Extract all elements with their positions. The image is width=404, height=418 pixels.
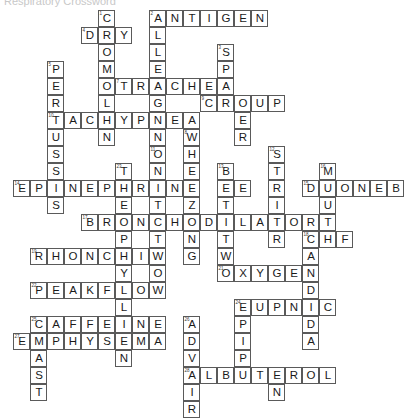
- crossword-cell[interactable]: I: [183, 384, 200, 401]
- crossword-cell[interactable]: E: [370, 180, 387, 197]
- crossword-cell[interactable]: T: [268, 214, 285, 231]
- crossword-cell[interactable]: N: [149, 112, 166, 129]
- crossword-cell[interactable]: U: [319, 197, 336, 214]
- crossword-cell[interactable]: E: [115, 333, 132, 350]
- crossword-cell[interactable]: P: [268, 299, 285, 316]
- crossword-cell[interactable]: 14E: [13, 180, 30, 197]
- crossword-cell[interactable]: E: [200, 78, 217, 95]
- crossword-cell[interactable]: D: [183, 333, 200, 350]
- crossword-cell[interactable]: F: [336, 231, 353, 248]
- crossword-cell[interactable]: R: [132, 78, 149, 95]
- crossword-cell[interactable]: R: [132, 180, 149, 197]
- crossword-cell[interactable]: I: [302, 299, 319, 316]
- crossword-cell[interactable]: H: [115, 180, 132, 197]
- crossword-cell[interactable]: U: [234, 367, 251, 384]
- crossword-cell[interactable]: K: [81, 282, 98, 299]
- crossword-cell[interactable]: Y: [81, 333, 98, 350]
- crossword-cell[interactable]: I: [132, 248, 149, 265]
- crossword-cell[interactable]: E: [149, 316, 166, 333]
- crossword-cell[interactable]: R: [234, 129, 251, 146]
- crossword-cell[interactable]: U: [251, 95, 268, 112]
- crossword-cell[interactable]: T: [149, 197, 166, 214]
- crossword-cell[interactable]: G: [183, 248, 200, 265]
- crossword-cell[interactable]: R: [268, 231, 285, 248]
- crossword-cell[interactable]: 22P: [30, 282, 47, 299]
- crossword-cell[interactable]: E: [268, 367, 285, 384]
- crossword-cell[interactable]: O: [234, 95, 251, 112]
- crossword-cell[interactable]: N: [285, 299, 302, 316]
- crossword-cell[interactable]: E: [234, 112, 251, 129]
- crossword-cell[interactable]: D: [302, 316, 319, 333]
- crossword-cell[interactable]: R: [302, 214, 319, 231]
- crossword-cell[interactable]: U: [319, 180, 336, 197]
- crossword-cell[interactable]: N: [302, 265, 319, 282]
- crossword-cell[interactable]: I: [47, 180, 64, 197]
- crossword-cell[interactable]: R: [285, 367, 302, 384]
- crossword-cell[interactable]: N: [115, 350, 132, 367]
- crossword-cell[interactable]: 9C: [200, 95, 217, 112]
- crossword-cell[interactable]: O: [98, 78, 115, 95]
- crossword-cell[interactable]: 12S: [268, 146, 285, 163]
- crossword-cell[interactable]: N: [183, 231, 200, 248]
- crossword-cell[interactable]: 5P: [47, 61, 64, 78]
- crossword-cell[interactable]: N: [251, 10, 268, 27]
- crossword-cell[interactable]: L: [98, 95, 115, 112]
- crossword-cell[interactable]: O: [64, 248, 81, 265]
- crossword-cell[interactable]: E: [285, 265, 302, 282]
- crossword-cell[interactable]: O: [336, 180, 353, 197]
- crossword-cell[interactable]: A: [149, 78, 166, 95]
- crossword-cell[interactable]: A: [149, 333, 166, 350]
- crossword-cell[interactable]: P: [47, 333, 64, 350]
- crossword-cell[interactable]: L: [319, 367, 336, 384]
- crossword-cell[interactable]: 13B: [217, 163, 234, 180]
- crossword-cell[interactable]: C: [166, 78, 183, 95]
- crossword-cell[interactable]: 17B: [81, 214, 98, 231]
- crossword-cell[interactable]: C: [98, 248, 115, 265]
- crossword-cell[interactable]: L: [149, 27, 166, 44]
- crossword-cell[interactable]: U: [47, 129, 64, 146]
- crossword-cell[interactable]: H: [115, 248, 132, 265]
- crossword-cell[interactable]: F: [81, 316, 98, 333]
- crossword-cell[interactable]: B: [387, 180, 404, 197]
- crossword-cell[interactable]: C: [319, 299, 336, 316]
- crossword-cell[interactable]: I: [149, 180, 166, 197]
- crossword-cell[interactable]: H: [166, 214, 183, 231]
- crossword-cell[interactable]: 24E: [234, 299, 251, 316]
- crossword-cell[interactable]: E: [98, 316, 115, 333]
- crossword-cell[interactable]: A: [251, 214, 268, 231]
- crossword-cell[interactable]: T: [319, 214, 336, 231]
- crossword-cell[interactable]: P: [234, 350, 251, 367]
- crossword-cell[interactable]: U: [251, 299, 268, 316]
- crossword-cell[interactable]: P: [98, 180, 115, 197]
- crossword-cell[interactable]: I: [268, 197, 285, 214]
- crossword-cell[interactable]: G: [217, 10, 234, 27]
- crossword-cell[interactable]: P: [234, 316, 251, 333]
- crossword-cell[interactable]: E: [149, 61, 166, 78]
- crossword-cell[interactable]: 21O: [217, 265, 234, 282]
- crossword-cell[interactable]: 4D: [81, 27, 98, 44]
- crossword-cell[interactable]: N: [98, 129, 115, 146]
- crossword-cell[interactable]: X: [234, 265, 251, 282]
- crossword-cell[interactable]: T: [183, 10, 200, 27]
- crossword-cell[interactable]: H: [319, 231, 336, 248]
- crossword-cell[interactable]: W: [217, 248, 234, 265]
- crossword-cell[interactable]: 3S: [217, 44, 234, 61]
- crossword-cell[interactable]: 19R: [30, 248, 47, 265]
- crossword-cell[interactable]: 15D: [302, 180, 319, 197]
- crossword-cell[interactable]: P: [132, 112, 149, 129]
- crossword-cell[interactable]: E: [217, 180, 234, 197]
- crossword-cell[interactable]: E: [47, 282, 64, 299]
- crossword-cell[interactable]: O: [285, 214, 302, 231]
- crossword-cell[interactable]: Y: [251, 265, 268, 282]
- crossword-cell[interactable]: D: [200, 214, 217, 231]
- crossword-cell[interactable]: M: [98, 61, 115, 78]
- crossword-cell[interactable]: E: [234, 180, 251, 197]
- crossword-cell[interactable]: O: [115, 214, 132, 231]
- crossword-cell[interactable]: O: [302, 367, 319, 384]
- crossword-cell[interactable]: O: [149, 265, 166, 282]
- crossword-cell[interactable]: E: [47, 78, 64, 95]
- crossword-cell[interactable]: 25C: [30, 316, 47, 333]
- crossword-cell[interactable]: 1C: [98, 10, 115, 27]
- crossword-cell[interactable]: M: [30, 333, 47, 350]
